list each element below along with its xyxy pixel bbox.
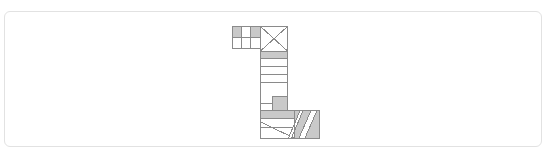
band-head <box>261 52 288 59</box>
top-cell-1 <box>233 27 242 38</box>
top-cell-2 <box>242 27 251 38</box>
band-3 <box>261 75 288 83</box>
top-cell-4 <box>233 38 242 49</box>
top-cell-6 <box>251 38 261 49</box>
figure-shapes <box>233 27 320 139</box>
top-cell-5 <box>242 38 251 49</box>
base-mid <box>261 119 295 128</box>
base-band <box>261 111 295 119</box>
raised-box <box>273 97 288 111</box>
top-cell-3 <box>251 27 261 38</box>
band-2 <box>261 67 288 75</box>
band-1 <box>261 59 288 67</box>
figure-layer <box>0 0 548 160</box>
l-shaped-block-diagram <box>0 0 548 160</box>
